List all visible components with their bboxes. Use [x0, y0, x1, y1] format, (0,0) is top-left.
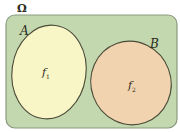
universe-label: Ω	[17, 2, 27, 15]
set-a-label: A	[20, 24, 29, 38]
venn-diagram	[0, 0, 180, 132]
set-b-inner-label: f2	[128, 79, 136, 93]
f2-subscript: 2	[132, 86, 136, 93]
set-a-inner-label: f1	[42, 66, 50, 80]
set-b-label: B	[150, 37, 159, 51]
f1-subscript: 1	[46, 73, 50, 80]
